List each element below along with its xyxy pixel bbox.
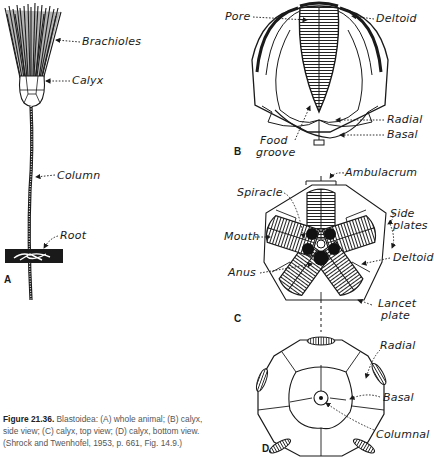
panel-letter-c: C xyxy=(234,313,241,324)
figure-number: Figure 21.36. xyxy=(3,414,54,424)
panel-d-drawing xyxy=(254,337,388,456)
label-radial-d: Radial xyxy=(380,340,415,352)
label-deltoid-b: Deltoid xyxy=(376,13,417,25)
label-ambulacrum: Ambulacrum xyxy=(345,167,417,179)
label-column: Column xyxy=(57,170,100,182)
label-anus: Anus xyxy=(228,267,256,279)
panel-letter-b: B xyxy=(234,146,241,157)
mouth-drawing xyxy=(317,240,325,248)
label-deltoid-c: Deltoid xyxy=(393,252,434,264)
caption-line-3: (Shrock and Twenhofel, 1953, p. 661, Fig… xyxy=(3,438,182,448)
label-spiracle: Spiracle xyxy=(237,187,283,199)
panel-b-drawing xyxy=(252,3,388,145)
panel-a-drawing xyxy=(5,3,63,300)
panel-c-drawing xyxy=(263,176,386,332)
label-calyx: Calyx xyxy=(72,75,104,87)
label-plate: plate xyxy=(381,310,410,322)
label-brachioles: Brachioles xyxy=(82,36,141,48)
caption-line-1: Blastoidea: (A) whole animal; (B) calyx, xyxy=(57,414,203,424)
column-drawing xyxy=(29,106,32,300)
label-mouth: Mouth xyxy=(224,231,259,243)
label-basal-b: Basal xyxy=(387,129,418,141)
label-groove: groove xyxy=(256,147,295,159)
panel-letter-a: A xyxy=(4,274,11,285)
label-basal-d: Basal xyxy=(383,392,414,404)
panel-letter-d: D xyxy=(262,443,269,454)
label-pore: Pore xyxy=(225,11,250,23)
caption-line-2: side view; (C) calyx, top view; (D) caly… xyxy=(3,426,199,436)
label-plates: plates xyxy=(393,220,428,232)
label-root: Root xyxy=(60,230,86,242)
calyx-a-drawing xyxy=(20,76,45,107)
label-columnal: Columnal xyxy=(376,429,430,441)
figure-caption: Figure 21.36. Blastoidea: (A) whole anim… xyxy=(3,413,228,449)
label-radial-b: Radial xyxy=(387,114,422,126)
